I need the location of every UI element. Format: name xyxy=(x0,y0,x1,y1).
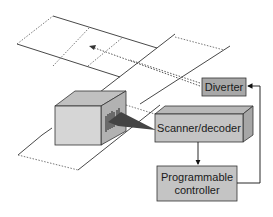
sorting-system-diagram: Scanner/decoder Programmable controller … xyxy=(0,0,273,217)
scanner-label: Scanner/decoder xyxy=(157,122,241,134)
diverter-label: Diverter xyxy=(205,81,244,93)
diverter: Diverter xyxy=(202,78,246,96)
diversion-path-arrow xyxy=(89,45,200,86)
programmable-controller: Programmable controller xyxy=(157,166,237,201)
controller-label-line1: Programmable xyxy=(161,171,233,183)
branch-conveyor xyxy=(17,16,157,77)
scanner-decoder: Scanner/decoder xyxy=(155,106,253,142)
package-box xyxy=(55,91,156,145)
controller-label-line2: controller xyxy=(174,184,220,196)
arrowhead-icon xyxy=(89,45,96,50)
